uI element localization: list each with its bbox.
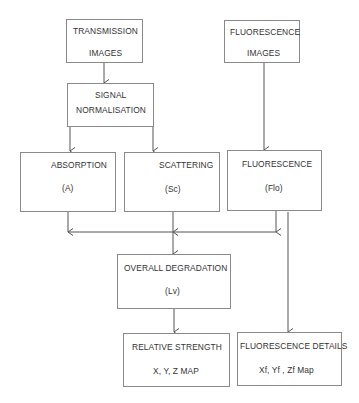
node-overall-degradation: OVERALL DEGRADATION (Lv) [117,254,231,309]
node-label: IMAGES [89,48,122,58]
node-label: (Lv) [165,286,180,296]
node-label: ABSORPTION [51,160,107,170]
node-label: Xf, Yf , Zf Map [259,365,314,375]
node-label: (A) [62,183,73,193]
node-absorption: ABSORPTION (A) [20,152,116,212]
node-scattering: SCATTERING (Sc) [124,152,220,212]
node-label: OVERALL DEGRADATION [124,263,227,273]
node-label: TRANSMISSION [73,26,138,36]
node-label: IMAGES [247,48,280,58]
node-label: FLUORESCENCE [242,159,312,169]
node-fluorescence-details: FLUORESCENCE DETAILS Xf, Yf , Zf Map [237,332,342,386]
node-label: FLUORESCENCE [230,27,300,37]
node-signal-normalisation: SIGNAL NORMALISATION [67,83,154,127]
node-label: RELATIVE STRENGTH [132,342,222,352]
node-label: NORMALISATION [76,105,146,115]
node-fluorescence: FLUORESCENCE (Flo) [227,150,322,211]
node-label: SIGNAL [95,90,126,100]
node-relative-strength: RELATIVE STRENGTH X, Y, Z MAP [123,333,230,387]
node-label: X, Y, Z MAP [153,366,199,376]
node-label: SCATTERING [159,160,213,170]
node-label: FLUORESCENCE DETAILS [240,341,347,351]
node-transmission-images: TRANSMISSION IMAGES [66,19,143,63]
node-label: (Flo) [265,183,283,193]
node-label: (Sc) [165,184,181,194]
node-fluorescence-images: FLUORESCENCE IMAGES [224,20,300,63]
